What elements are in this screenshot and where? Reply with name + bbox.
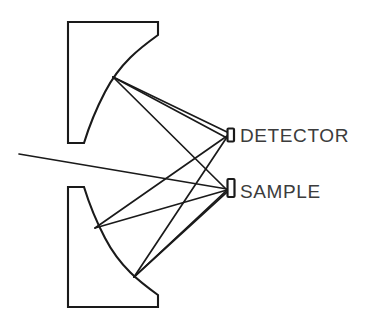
detector-marker (228, 129, 235, 142)
optics-diagram: DETECTOR SAMPLE (0, 0, 377, 328)
sample-marker (228, 179, 235, 197)
lower-mirror-lower-to-detector (134, 137, 227, 277)
upper-curved-mirror (68, 22, 158, 143)
optics-canvas: DETECTOR SAMPLE (0, 0, 377, 328)
lower-mirror-lower-to-sample (134, 192, 227, 277)
detector-label: DETECTOR (240, 125, 349, 146)
ray-bundle (19, 77, 227, 277)
upper-mirror-to-detector-lower (113, 77, 227, 138)
lower-mirror-upper-to-detector (95, 136, 227, 228)
lower-curved-mirror (68, 187, 158, 307)
sample-label: SAMPLE (240, 181, 321, 202)
